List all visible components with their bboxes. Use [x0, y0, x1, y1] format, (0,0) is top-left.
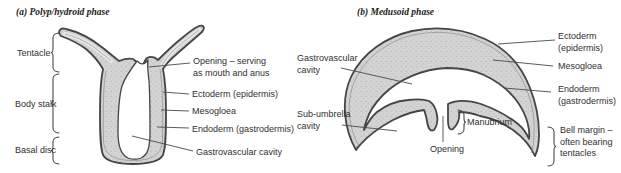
- ectoderm-label-a: Ectoderm (epidermis): [192, 89, 278, 101]
- panel-a-title: (a) Polyp/hydroid phase: [16, 6, 109, 18]
- bell-margin-label-line1: Bell margin –: [560, 125, 613, 137]
- endoderm-label-b: Endoderm (gastrodermis): [558, 84, 616, 107]
- ectoderm-leader-line: [163, 92, 189, 94]
- opening-label-a: Opening – serving as mouth and anus: [193, 56, 270, 79]
- opening-label-a-line1: Opening – serving: [193, 56, 270, 68]
- diagram-artwork: [0, 0, 621, 173]
- basal-disc-label: Basal disc: [15, 145, 56, 157]
- ectoderm-label-b: Ectoderm (epidermis): [558, 31, 603, 54]
- opening-label-b: Opening: [430, 144, 464, 156]
- endoderm-label-b-line2: (gastrodermis): [558, 96, 616, 108]
- mesogloea-label-b: Mesogloea: [558, 61, 602, 73]
- gastrovascular-label-b-line1: Gastrovascular: [297, 53, 358, 65]
- endoderm-label-b-line1: Endoderm: [558, 84, 616, 96]
- sub-umbrella-label-line1: Sub-umbrella: [297, 109, 351, 121]
- sub-umbrella-label-line2: cavity: [297, 121, 351, 133]
- ectoderm-label-b-line1: Ectoderm: [558, 31, 603, 43]
- medusa-body-shape: [345, 29, 539, 156]
- cnidarian-body-forms-figure: (a) Polyp/hydroid phase Tentacle Body st…: [0, 0, 621, 173]
- panel-b-title: (b) Medusoid phase: [357, 6, 434, 18]
- endoderm-label-a: Endoderm (gastrodermis): [192, 124, 294, 136]
- bell-margin-brace: [548, 127, 556, 166]
- bell-margin-label-line2: often bearing: [560, 137, 613, 149]
- bell-margin-label: Bell margin – often bearing tentacles: [560, 125, 613, 160]
- opening-label-a-line2: as mouth and anus: [193, 68, 270, 80]
- sub-umbrella-label: Sub-umbrella cavity: [297, 109, 351, 132]
- tentacle-brace: [51, 33, 59, 72]
- ectoderm-label-b-line2: (epidermis): [558, 43, 603, 55]
- gastrovascular-label-b: Gastrovascular cavity: [297, 53, 358, 76]
- polyp-diagram: [51, 26, 204, 164]
- gastrovascular-label-b-line2: cavity: [297, 65, 358, 77]
- body-stalk-label: Body stalk: [15, 99, 57, 111]
- ectoderm-leader-line: [498, 40, 555, 44]
- manubrium-label: Manubrium: [467, 117, 512, 129]
- mesogloea-label-a: Mesogloea: [192, 106, 236, 118]
- gastrovascular-label-a: Gastrovascular cavity: [196, 147, 282, 159]
- tentacle-label: Tentacle: [17, 48, 51, 60]
- bell-margin-label-line3: tentacles: [560, 148, 613, 160]
